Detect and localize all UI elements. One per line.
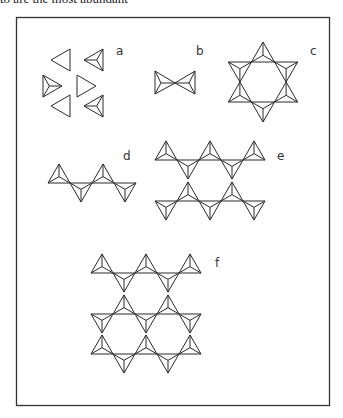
panel-label-d: d bbox=[123, 149, 131, 163]
tetrahedron-plain bbox=[77, 75, 96, 97]
tetrahedron-plain bbox=[51, 49, 70, 71]
panel-label-a: a bbox=[116, 44, 123, 58]
panel-a-isolated-tetrahedra bbox=[43, 49, 103, 117]
panel-c-ring-structure bbox=[228, 42, 297, 122]
panel-b-paired-tetrahedra bbox=[155, 71, 195, 94]
panel-e-double-chain bbox=[155, 141, 265, 220]
panel-d-single-chain bbox=[48, 164, 136, 202]
panel-label-e: e bbox=[277, 149, 284, 163]
tetrahedron-plain bbox=[51, 95, 70, 117]
panel-label-c: c bbox=[310, 44, 317, 58]
silicate-structures-figure: a b c d e f bbox=[0, 0, 343, 418]
panel-label-b: b bbox=[196, 44, 204, 58]
panel-label-f: f bbox=[215, 256, 220, 270]
panel-f-sheet-structure bbox=[91, 254, 201, 373]
